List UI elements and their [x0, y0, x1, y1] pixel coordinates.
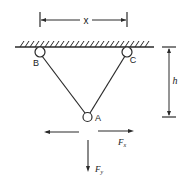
label-a: A: [95, 113, 101, 123]
label-b: B: [33, 58, 39, 68]
arrow-left-icon: [44, 130, 50, 134]
ring-a-icon: [83, 113, 92, 122]
pulley-b-icon: [35, 47, 45, 57]
force-y-label: Fy: [94, 164, 104, 175]
ceiling: [15, 41, 154, 47]
force-x: Fx: [44, 129, 134, 148]
rope-b-a: [42, 56, 85, 113]
arrow-right-icon: [128, 129, 134, 133]
dimension-h: h: [162, 47, 178, 117]
label-c: C: [130, 55, 137, 65]
force-x-label: Fx: [117, 137, 127, 148]
pulley-c: C: [122, 47, 137, 65]
dimension-x-label: x: [84, 15, 89, 26]
force-y: Fy: [86, 140, 104, 175]
ring-a: A: [83, 113, 101, 124]
rope-c-a: [90, 56, 125, 113]
dimension-x: x: [40, 12, 127, 27]
pulley-diagram: x: [0, 0, 187, 184]
arrow-down-icon: [86, 166, 90, 172]
dimension-h-label: h: [173, 75, 178, 86]
